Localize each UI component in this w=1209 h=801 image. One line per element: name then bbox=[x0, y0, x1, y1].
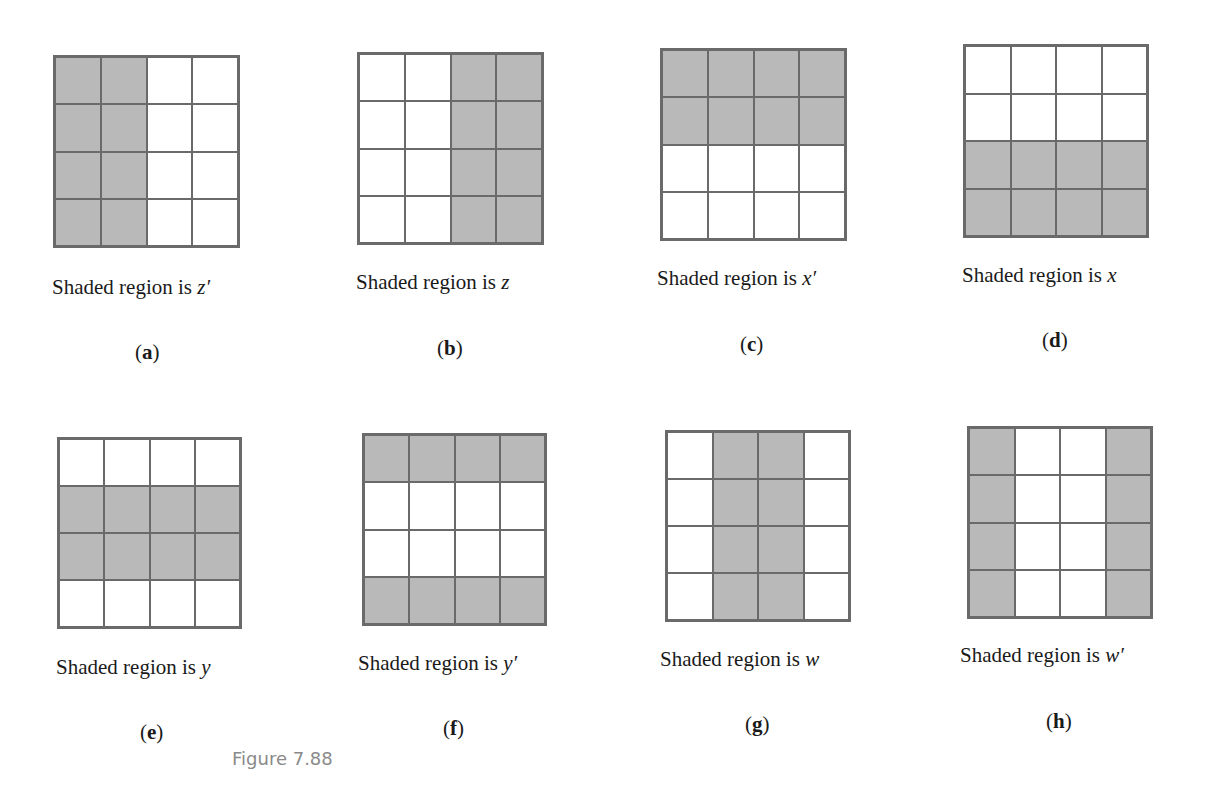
empty-cell bbox=[195, 580, 240, 627]
karnaugh-grid-a bbox=[53, 55, 240, 248]
shaded-cell bbox=[364, 577, 409, 624]
empty-cell bbox=[195, 439, 240, 486]
shaded-cell bbox=[195, 486, 240, 533]
shaded-cell bbox=[104, 533, 149, 580]
caption-prefix: Shaded region is bbox=[657, 266, 802, 290]
empty-cell bbox=[965, 46, 1011, 94]
panel-caption-f: Shaded region is y′ bbox=[358, 651, 517, 676]
shaded-cell bbox=[1056, 189, 1102, 237]
empty-cell bbox=[667, 573, 713, 620]
empty-cell bbox=[667, 479, 713, 526]
shaded-cell bbox=[150, 533, 195, 580]
shaded-cell bbox=[1106, 428, 1152, 475]
empty-cell bbox=[1015, 428, 1061, 475]
panel-letter: h bbox=[1053, 709, 1065, 733]
caption-prefix: Shaded region is bbox=[356, 270, 501, 294]
shaded-cell bbox=[799, 97, 845, 144]
empty-cell bbox=[667, 432, 713, 479]
empty-cell bbox=[192, 199, 238, 246]
shaded-cell bbox=[758, 526, 804, 573]
shaded-cell bbox=[409, 435, 454, 482]
shaded-cell bbox=[969, 570, 1015, 617]
empty-cell bbox=[359, 54, 405, 101]
shaded-cell bbox=[758, 432, 804, 479]
empty-cell bbox=[1056, 46, 1102, 94]
caption-prefix: Shaded region is bbox=[660, 647, 805, 671]
empty-cell bbox=[708, 192, 754, 239]
shaded-cell bbox=[662, 50, 708, 97]
shaded-cell bbox=[965, 141, 1011, 189]
empty-cell bbox=[359, 101, 405, 148]
panel-label-c: (c) bbox=[740, 332, 763, 357]
panel-caption-e: Shaded region is y bbox=[56, 655, 211, 680]
shaded-cell bbox=[101, 57, 147, 104]
karnaugh-grid-e bbox=[57, 437, 242, 629]
karnaugh-grid-h bbox=[967, 426, 1153, 619]
shaded-cell bbox=[1011, 189, 1057, 237]
panel-label-b: (b) bbox=[437, 336, 463, 361]
caption-variable: y bbox=[201, 655, 210, 679]
caption-prefix: Shaded region is bbox=[52, 275, 197, 299]
caption-variable: w bbox=[805, 647, 819, 671]
shaded-cell bbox=[500, 577, 545, 624]
panel-letter: a bbox=[142, 340, 153, 364]
shaded-cell bbox=[496, 101, 542, 148]
empty-cell bbox=[1060, 428, 1106, 475]
empty-cell bbox=[1060, 523, 1106, 570]
shaded-cell bbox=[150, 486, 195, 533]
empty-cell bbox=[804, 526, 850, 573]
panel-label-f: (f) bbox=[443, 716, 464, 741]
empty-cell bbox=[754, 192, 800, 239]
caption-prefix: Shaded region is bbox=[962, 263, 1107, 287]
empty-cell bbox=[1056, 94, 1102, 142]
caption-variable: x′ bbox=[802, 266, 816, 290]
empty-cell bbox=[147, 57, 193, 104]
panel-letter: g bbox=[752, 712, 763, 736]
empty-cell bbox=[667, 526, 713, 573]
caption-variable: w′ bbox=[1105, 643, 1124, 667]
empty-cell bbox=[359, 196, 405, 243]
empty-cell bbox=[754, 145, 800, 192]
empty-cell bbox=[147, 152, 193, 199]
panel-letter: d bbox=[1049, 328, 1061, 352]
shaded-cell bbox=[101, 152, 147, 199]
panel-label-g: (g) bbox=[745, 712, 770, 737]
shaded-cell bbox=[451, 149, 497, 196]
empty-cell bbox=[405, 101, 451, 148]
caption-prefix: Shaded region is bbox=[358, 651, 503, 675]
karnaugh-grid-f bbox=[362, 433, 547, 626]
panel-letter: c bbox=[747, 332, 756, 356]
shaded-cell bbox=[55, 57, 101, 104]
shaded-cell bbox=[1106, 523, 1152, 570]
shaded-cell bbox=[496, 149, 542, 196]
shaded-cell bbox=[455, 577, 500, 624]
empty-cell bbox=[1011, 94, 1057, 142]
shaded-cell bbox=[55, 199, 101, 246]
shaded-cell bbox=[409, 577, 454, 624]
empty-cell bbox=[192, 57, 238, 104]
panel-label-a: (a) bbox=[135, 340, 160, 365]
karnaugh-grid-c bbox=[660, 48, 847, 241]
empty-cell bbox=[409, 482, 454, 529]
shaded-cell bbox=[1106, 570, 1152, 617]
shaded-cell bbox=[713, 526, 759, 573]
caption-variable: x bbox=[1107, 263, 1116, 287]
empty-cell bbox=[409, 530, 454, 577]
shaded-cell bbox=[496, 196, 542, 243]
empty-cell bbox=[662, 192, 708, 239]
empty-cell bbox=[1102, 94, 1148, 142]
empty-cell bbox=[804, 573, 850, 620]
empty-cell bbox=[405, 149, 451, 196]
panel-letter: f bbox=[450, 716, 457, 740]
empty-cell bbox=[147, 104, 193, 151]
empty-cell bbox=[965, 94, 1011, 142]
shaded-cell bbox=[451, 101, 497, 148]
empty-cell bbox=[1102, 46, 1148, 94]
shaded-cell bbox=[799, 50, 845, 97]
empty-cell bbox=[1015, 475, 1061, 522]
caption-variable: z′ bbox=[197, 275, 210, 299]
shaded-cell bbox=[1102, 189, 1148, 237]
empty-cell bbox=[1060, 475, 1106, 522]
shaded-cell bbox=[59, 533, 104, 580]
shaded-cell bbox=[59, 486, 104, 533]
